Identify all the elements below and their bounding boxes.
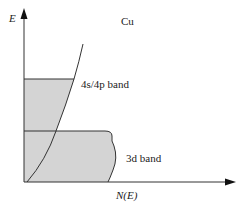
x-axis-label: N(E)	[116, 190, 137, 201]
3d-band-fill	[24, 131, 116, 182]
3d-band-label: 3d band	[126, 153, 161, 164]
4s4p-band-fill	[24, 79, 74, 131]
y-axis-label: E	[9, 13, 16, 24]
element-label: Cu	[121, 16, 134, 27]
x-axis-arrow-icon	[225, 179, 236, 186]
y-axis-arrow-icon	[21, 8, 28, 19]
4s4p-band-label: 4s/4p band	[81, 79, 129, 90]
band-diagram	[0, 0, 239, 208]
